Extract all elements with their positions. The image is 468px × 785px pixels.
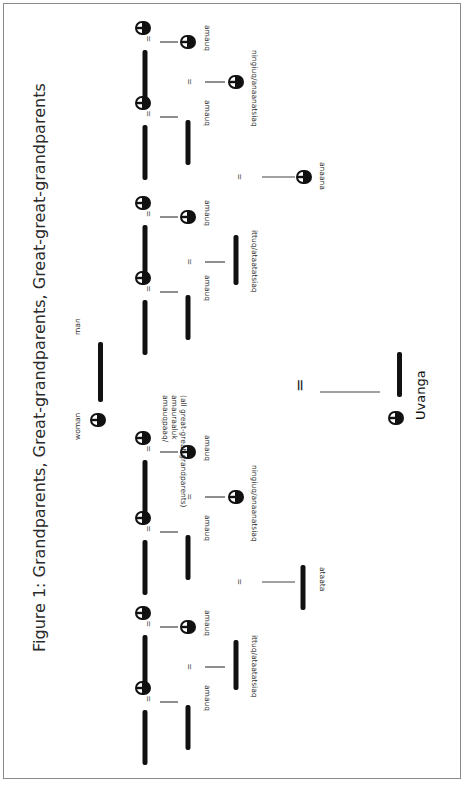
parent-equals-sign: = xyxy=(235,173,244,180)
gggp-equals-sign: = xyxy=(144,210,153,217)
ggp-man-icon xyxy=(186,120,191,165)
parent-woman-icon xyxy=(297,170,312,184)
gp-equals-sign: = xyxy=(185,258,194,265)
ggp-label: amauq xyxy=(203,515,212,541)
ggp-woman-icon xyxy=(181,620,196,634)
gggp-woman-icon xyxy=(136,431,151,445)
ggp-label: amauq xyxy=(203,685,212,711)
gp-label: ittuq/ataatatsiaq xyxy=(250,230,259,293)
gp-label: ittuq/ataatatsiaq xyxy=(250,635,259,698)
ggp-woman-icon xyxy=(181,445,196,459)
ego-equals-sign: = xyxy=(290,379,309,392)
gggp-woman-icon xyxy=(136,511,151,525)
gp-woman-icon xyxy=(229,490,244,504)
ego: = Uvanga xyxy=(290,352,428,425)
gp-woman-icon xyxy=(229,75,244,89)
ggp-label: amauq xyxy=(203,435,212,461)
gp-equals-sign: = xyxy=(185,78,194,85)
gggp-man-icon xyxy=(143,460,148,515)
ego-woman-icon xyxy=(389,411,404,425)
gggp-man-icon xyxy=(143,300,148,355)
ggp-label: amauq xyxy=(203,275,212,301)
legend-man-icon xyxy=(98,342,103,402)
gggp-woman-icon xyxy=(136,271,151,285)
gggp-equals-sign: = xyxy=(144,445,153,452)
figure-title: Figure 1: Grandparents, Great-grandparen… xyxy=(30,83,49,652)
gggp-woman-icon xyxy=(136,606,151,620)
gggp-man-icon xyxy=(143,540,148,595)
legend-man-label: man xyxy=(73,318,82,335)
gp-equals-sign: = xyxy=(185,493,194,500)
gggp-equals-sign: = xyxy=(144,525,153,532)
gggp-woman-icon xyxy=(136,21,151,35)
ggp-woman-icon xyxy=(181,35,196,49)
gp-man-icon xyxy=(234,640,239,690)
gggp-equals-sign: = xyxy=(144,695,153,702)
ggp-man-icon xyxy=(186,535,191,580)
gggp-man-icon xyxy=(143,710,148,765)
gggp-woman-icon xyxy=(136,196,151,210)
grandparents-column: =ningiuq/anaanatsiaq=ittuq/ataatatsiaq=n… xyxy=(185,50,259,698)
ggp-label: amauq xyxy=(203,100,212,126)
ggp-label: amauq xyxy=(203,200,212,226)
great-great-grandparents-column: ======== xyxy=(136,21,153,765)
gggp-equals-sign: = xyxy=(144,285,153,292)
ego-man-icon xyxy=(397,352,402,397)
ggp-man-icon xyxy=(186,705,191,750)
gp-label: ningiuq/anaanatsiaq xyxy=(250,465,259,542)
gggp-woman-icon xyxy=(136,96,151,110)
ggp-woman-icon xyxy=(181,210,196,224)
gggp-woman-icon xyxy=(136,681,151,695)
gggp-man-icon xyxy=(143,125,148,180)
great-grandparents-column: amauqamauqamauqamauqamauqamauqamauqamauq xyxy=(160,25,212,750)
parent-equals-sign: = xyxy=(235,578,244,585)
gggp-label-line-2: amauraaluk xyxy=(170,395,179,440)
legend-woman-label: woman xyxy=(73,412,82,440)
ego-label: Uvanga xyxy=(413,370,428,420)
legend: woman man xyxy=(73,318,106,440)
ggp-man-icon xyxy=(186,295,191,340)
legend-woman-icon xyxy=(91,413,106,427)
gggp-equals-sign: = xyxy=(144,110,153,117)
parent-man-icon xyxy=(301,565,306,610)
parent-label: anaana xyxy=(318,162,327,190)
gp-equals-sign: = xyxy=(185,663,194,670)
ggp-label: amauq xyxy=(203,25,212,51)
gggp-equals-sign: = xyxy=(144,620,153,627)
parents-column: =anaana=ataata xyxy=(235,162,327,610)
gggp-label-line-1: amauqpaaq/ xyxy=(161,395,170,443)
gp-label: ningiuq/anaanatsiaq xyxy=(250,50,259,127)
kinship-diagram: Figure 1: Grandparents, Great-grandparen… xyxy=(0,0,468,785)
gggp-equals-sign: = xyxy=(144,35,153,42)
parent-label: ataata xyxy=(318,567,327,591)
gp-man-icon xyxy=(234,235,239,285)
ggp-label: amauq xyxy=(203,610,212,636)
